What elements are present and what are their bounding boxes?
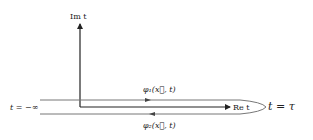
contour-diagram: Im t Re t t = −∞ t = τ φ₁(x⃗, t) φ₂(x⃗, … [0,0,313,140]
start-label: t = −∞ [10,103,38,112]
lower-branch-arrow-icon [149,112,155,116]
end-label: t = τ [268,100,296,113]
imaginary-axis-label: Im t [70,12,87,21]
upper-branch-arrow-icon [145,98,151,102]
upper-branch-label: φ₁(x⃗, t) [143,85,176,94]
lower-branch-label: φ₂(x⃗, t) [143,121,176,130]
real-axis-label: Re t [233,103,250,112]
